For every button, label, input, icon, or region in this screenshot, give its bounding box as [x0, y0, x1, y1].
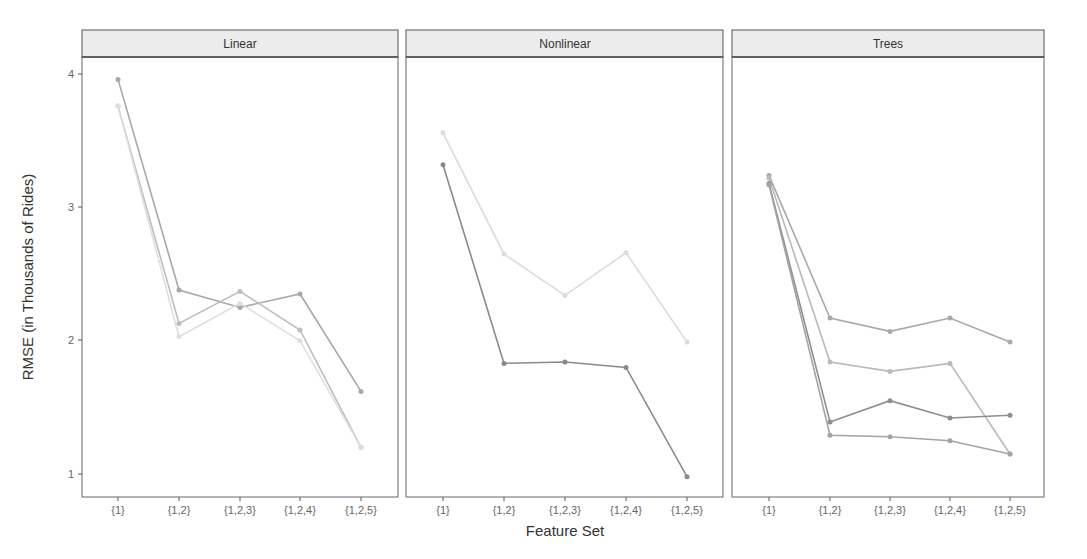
data-point [685, 474, 690, 479]
data-point [298, 292, 303, 297]
x-tick-label: {1,2} [493, 504, 516, 516]
panel-linear [82, 57, 398, 497]
data-point [298, 328, 303, 333]
data-point [238, 289, 243, 294]
data-point [359, 445, 364, 450]
data-point [563, 360, 568, 365]
data-point [502, 361, 507, 366]
series-nonlinear-model-a [441, 130, 690, 344]
x-tick-label: {1,2,3} [224, 504, 256, 516]
x-tick-label: {1,2} [819, 504, 842, 516]
data-point [441, 162, 446, 167]
data-point [298, 338, 303, 343]
x-tick-label: {1} [111, 504, 125, 516]
data-point [116, 77, 121, 82]
data-point [948, 416, 953, 421]
data-point [177, 288, 182, 293]
series-layer [116, 77, 1013, 479]
x-tick-label: {1,2,3} [549, 504, 581, 516]
data-point [502, 252, 507, 257]
data-point [828, 316, 833, 321]
facet-label-linear: Linear [223, 37, 256, 51]
panel-nonlinear [406, 57, 723, 497]
x-tick-label: {1,2} [168, 504, 191, 516]
series-linear-model-b [116, 104, 364, 450]
data-point [888, 434, 893, 439]
data-point [948, 316, 953, 321]
data-point [948, 438, 953, 443]
facet-strip-nonlinear: Nonlinear [406, 30, 723, 57]
data-point [1008, 340, 1013, 345]
x-tick-label: {1} [436, 504, 450, 516]
data-point [624, 250, 629, 255]
facet-strip-trees: Trees [732, 30, 1044, 57]
data-point [1008, 413, 1013, 418]
faceted-line-chart: Linear Nonlinear Trees 4 3 2 1 RMSE (in … [0, 0, 1087, 559]
data-point [767, 176, 772, 181]
data-point [116, 104, 121, 109]
facet-label-trees: Trees [873, 37, 903, 51]
x-tick-label: {1,2,4} [610, 504, 642, 516]
data-point [685, 340, 690, 345]
x-axis: {1}{1,2}{1,2,3}{1,2,4}{1,2,5}{1}{1,2}{1,… [111, 497, 1026, 516]
data-point [359, 389, 364, 394]
data-point [563, 293, 568, 298]
x-tick-label: {1,2,5} [671, 504, 703, 516]
data-point [238, 301, 243, 306]
x-tick-label: {1} [762, 504, 776, 516]
facet-strip-linear: Linear [82, 30, 398, 57]
x-axis-title: Feature Set [526, 522, 605, 539]
x-tick-label: {1,2,4} [934, 504, 966, 516]
y-tick-4: 4 [68, 68, 74, 80]
y-axis-title: RMSE (in Thousands of Rides) [19, 174, 36, 380]
series-trees-model-c [767, 181, 1013, 425]
data-point [888, 369, 893, 374]
data-point [828, 433, 833, 438]
y-tick-1: 1 [68, 468, 74, 480]
series-linear-model-c [116, 104, 364, 450]
data-point [441, 130, 446, 135]
data-point [624, 365, 629, 370]
data-point [948, 361, 953, 366]
facet-label-nonlinear: Nonlinear [539, 37, 590, 51]
data-point [888, 329, 893, 334]
y-tick-2: 2 [68, 334, 74, 346]
data-point [888, 398, 893, 403]
panel-trees [732, 57, 1044, 497]
x-tick-label: {1,2,4} [284, 504, 316, 516]
y-axis: 4 3 2 1 [68, 68, 82, 480]
data-point [828, 360, 833, 365]
data-point [767, 182, 772, 187]
x-tick-label: {1,2,5} [994, 504, 1026, 516]
x-tick-label: {1,2,5} [345, 504, 377, 516]
data-point [177, 321, 182, 326]
series-nonlinear-model-b [441, 162, 690, 479]
y-tick-3: 3 [68, 201, 74, 213]
x-tick-label: {1,2,3} [874, 504, 906, 516]
data-point [1008, 452, 1013, 457]
data-point [828, 420, 833, 425]
data-point [177, 334, 182, 339]
